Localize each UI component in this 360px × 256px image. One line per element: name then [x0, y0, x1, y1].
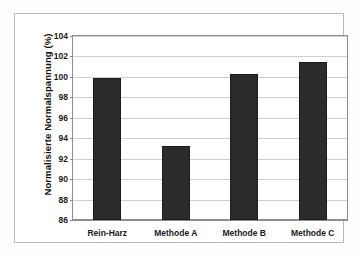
gridline	[73, 56, 347, 57]
y-axis-tick-mark	[70, 200, 73, 201]
x-axis-tick-label: Methode C	[291, 228, 334, 238]
x-axis-tick-label: Methode B	[223, 228, 266, 238]
y-axis-tick-mark	[70, 179, 73, 180]
x-axis-tick-label: Methode A	[154, 228, 197, 238]
y-axis-tick-label: 100	[54, 72, 68, 82]
y-axis-title: Normalisierte Normalspannung (%)	[42, 25, 53, 205]
y-axis-tick-mark	[70, 36, 73, 37]
y-axis-tick-label: 104	[54, 31, 68, 41]
y-axis-tick-label: 88	[59, 195, 68, 205]
y-axis-tick-label: 94	[59, 133, 68, 143]
y-axis-tick-mark	[70, 56, 73, 57]
y-axis-tick-mark	[70, 77, 73, 78]
figure-frame: Normalisierte Normalspannung (%) 1041021…	[14, 13, 344, 243]
bar	[93, 78, 121, 220]
y-axis-tick-mark	[70, 159, 73, 160]
y-axis-tick-label: 102	[54, 51, 68, 61]
plot-area: 10410210098969492908886 Rein-HarzMethode…	[72, 35, 348, 221]
y-axis-tick-mark	[70, 97, 73, 98]
y-axis-tick-label: 96	[59, 113, 68, 123]
bar	[230, 74, 258, 220]
y-axis-tick-mark	[70, 118, 73, 119]
chart-figure: Normalisierte Normalspannung (%) 1041021…	[0, 0, 360, 256]
gridline	[73, 36, 347, 37]
y-axis-tick-mark	[70, 220, 73, 221]
x-axis-tick-label: Rein-Harz	[87, 228, 127, 238]
y-axis-tick-label: 92	[59, 154, 68, 164]
bar	[299, 62, 327, 220]
y-axis-tick-mark	[70, 138, 73, 139]
bar	[162, 146, 190, 220]
y-axis-tick-label: 86	[59, 215, 68, 225]
y-axis-tick-label: 98	[59, 92, 68, 102]
y-axis-tick-label: 90	[59, 174, 68, 184]
